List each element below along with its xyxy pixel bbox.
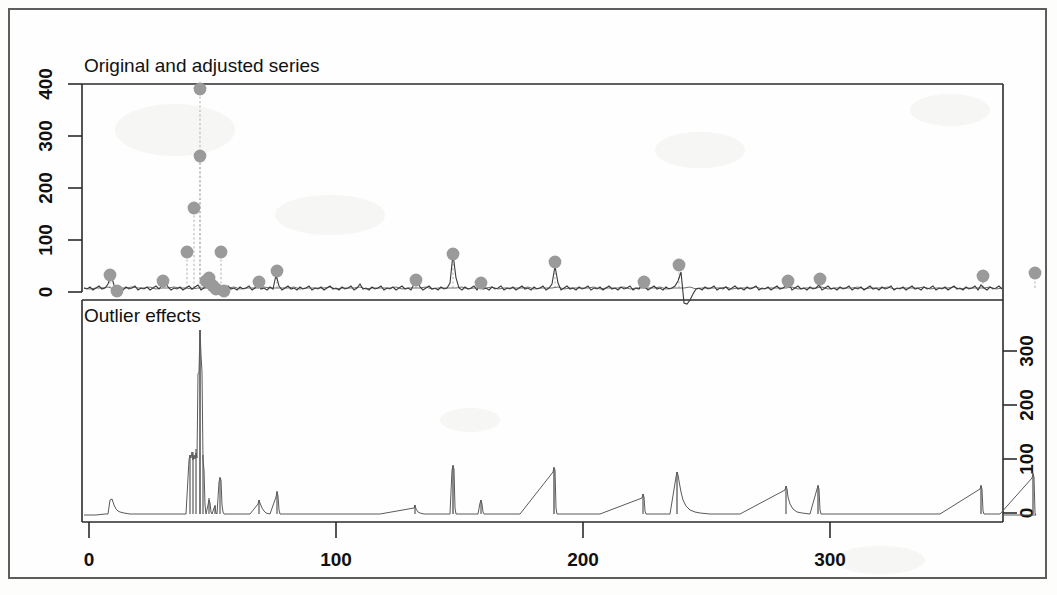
- xtick-100: 100: [320, 549, 352, 570]
- outlier-dot: [673, 259, 686, 272]
- bottom-ytick-300: 300: [1016, 335, 1037, 367]
- outlier-dot: [253, 276, 266, 289]
- outlier-dots: [104, 83, 1042, 298]
- outlier-dot: [194, 83, 207, 96]
- top-ytick-400: 400: [35, 68, 56, 100]
- outlier-dot: [111, 285, 124, 298]
- top-ytick-100: 100: [35, 224, 56, 256]
- top-panel-title: Original and adjusted series: [84, 55, 320, 76]
- outlier-dot: [188, 202, 201, 215]
- outlier-dot: [215, 246, 228, 259]
- bottom-panel: Outlier effects 0 100 200 300: [82, 300, 1037, 522]
- outlier-dot: [782, 275, 795, 288]
- outlier-drop-lines: [110, 89, 1035, 291]
- bottom-panel-title: Outlier effects: [84, 305, 201, 326]
- top-panel-y-axis: 400 300 200 100 0: [35, 68, 82, 297]
- x-axis: 0 100 200 300: [84, 522, 846, 570]
- outlier-dot: [104, 269, 117, 282]
- xtick-300: 300: [814, 549, 846, 570]
- top-ytick-300: 300: [35, 120, 56, 152]
- outlier-effect-spikes: [190, 330, 1033, 514]
- xtick-200: 200: [567, 549, 599, 570]
- outlier-dot: [549, 256, 562, 269]
- bottom-ytick-200: 200: [1016, 389, 1037, 421]
- outlier-dot: [218, 285, 231, 298]
- chart-svg: Original and adjusted series 400 300 200…: [0, 0, 1057, 595]
- outlier-dot: [410, 274, 423, 287]
- outlier-dot: [475, 277, 488, 290]
- plot-area: Original and adjusted series 400 300 200…: [0, 0, 1057, 595]
- outlier-dot: [157, 275, 170, 288]
- outlier-dot: [447, 248, 460, 261]
- outlier-dot: [977, 270, 990, 283]
- outlier-effects-line: [84, 330, 1036, 515]
- figure-root: Original and adjusted series 400 300 200…: [0, 0, 1057, 595]
- outlier-dot: [203, 272, 216, 285]
- bottom-ytick-0: 0: [1016, 508, 1037, 519]
- outlier-dot: [181, 246, 194, 259]
- outlier-dot: [638, 276, 651, 289]
- top-ytick-200: 200: [35, 172, 56, 204]
- outlier-dot: [271, 265, 284, 278]
- outlier-dot: [1029, 267, 1042, 280]
- bottom-ytick-100: 100: [1016, 443, 1037, 475]
- outlier-dot: [194, 150, 207, 163]
- top-panel: Original and adjusted series 400 300 200…: [35, 55, 1041, 304]
- scan-artifacts: [115, 94, 990, 574]
- xtick-0: 0: [84, 549, 95, 570]
- top-ytick-0: 0: [35, 287, 56, 298]
- outlier-dot: [814, 273, 827, 286]
